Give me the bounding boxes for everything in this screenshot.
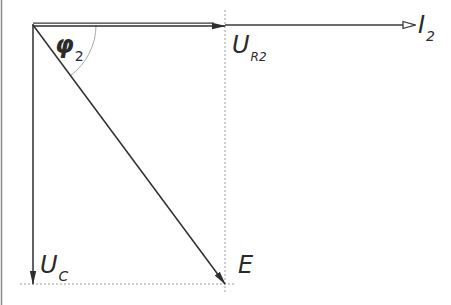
label-i2-main: I — [418, 11, 425, 39]
label-e-main: E — [238, 251, 253, 279]
label-phi2-main: φ — [55, 31, 74, 59]
label-phi2: φ2 — [55, 33, 84, 57]
label-uc: UC — [40, 253, 68, 277]
label-ur2-main: U — [232, 31, 250, 59]
label-i2-sub: 2 — [426, 28, 435, 44]
label-uc-sub: C — [59, 268, 69, 284]
label-ur2: UR2 — [232, 33, 267, 57]
label-uc-main: U — [40, 251, 58, 279]
label-phi2-sub: 2 — [75, 48, 84, 64]
label-ur2-sub: R2 — [251, 50, 267, 64]
label-e: E — [238, 253, 253, 277]
label-i2: I2 — [418, 13, 435, 37]
vector-e — [33, 25, 225, 284]
